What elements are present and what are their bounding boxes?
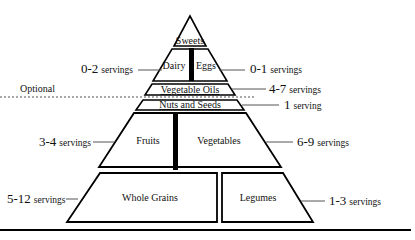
tier-dairy-label: Dairy [163, 60, 186, 71]
servings-nuts: 1serving [284, 97, 322, 112]
tier-fruits-label: Fruits [136, 135, 159, 146]
servings-fruits: 3-4servings [39, 134, 91, 149]
servings-vegetables: 6-9servings [297, 134, 349, 149]
servings-grains: 5-12servings [7, 191, 66, 206]
divider-dairy-eggs [189, 48, 194, 81]
divider-fruits-vegetables [173, 113, 178, 170]
tier-whole-grains-label: Whole Grains [122, 192, 178, 203]
servings-dairy: 0-2servings [81, 61, 133, 76]
tier-vegetable-oils-label: Vegetable Oils [161, 84, 220, 95]
servings-eggs: 0-1servings [250, 61, 302, 76]
optional-label: Optional [20, 83, 55, 94]
tier-eggs-label: Eggs [196, 60, 216, 71]
servings-legumes: 1-3servings [329, 193, 381, 208]
tier-fruits-vegetables [99, 113, 281, 167]
tier-sweets-label: Sweets [176, 35, 204, 46]
food-pyramid-diagram: Sweets Dairy Eggs Vegetable Oils Optiona… [0, 0, 415, 240]
tier-nuts-seeds-label: Nuts and Seeds [159, 99, 221, 110]
tier-vegetables-label: Vegetables [197, 135, 240, 146]
servings-oils: 4-7servings [269, 81, 321, 96]
tier-legumes-label: Legumes [240, 192, 277, 203]
